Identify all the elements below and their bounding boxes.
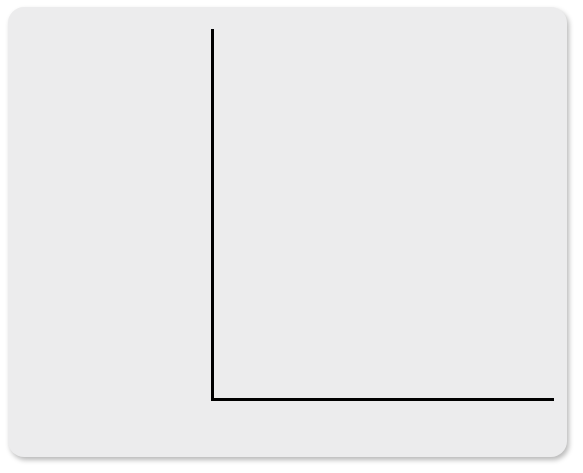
bar-chart-plot bbox=[8, 7, 567, 457]
x-axis-line bbox=[211, 398, 554, 401]
chart-card bbox=[8, 7, 567, 457]
y-axis-line bbox=[211, 29, 214, 400]
